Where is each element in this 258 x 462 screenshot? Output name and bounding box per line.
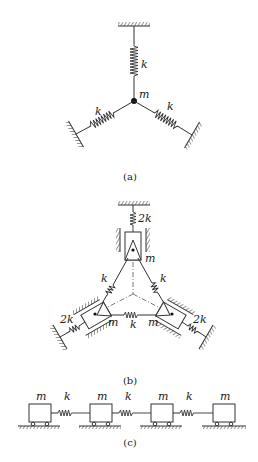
wall-top-a bbox=[118, 22, 150, 26]
wall-top-b bbox=[118, 201, 150, 205]
spring-left-a bbox=[76, 101, 134, 134]
panel-a: k m k k (a) bbox=[65, 22, 203, 182]
label-k-right-b: k bbox=[160, 272, 167, 285]
caption-c: (c) bbox=[123, 437, 137, 448]
label-k-3-c: k bbox=[186, 390, 193, 403]
label-k-right-a: k bbox=[167, 100, 174, 113]
label-k-top-a: k bbox=[141, 58, 148, 71]
caption-a: (a) bbox=[123, 171, 137, 182]
mass-3-c bbox=[140, 404, 182, 429]
vibration-systems-figure: k m k k (a) bbox=[0, 0, 258, 462]
mass-4-c bbox=[202, 404, 246, 429]
wall-left-a bbox=[65, 121, 83, 149]
panel-c: m k m k m bbox=[18, 390, 246, 448]
wall-right-a bbox=[185, 122, 203, 150]
label-k-left-b: k bbox=[101, 272, 108, 285]
mass-2-c bbox=[79, 404, 121, 429]
label-k-2-c: k bbox=[125, 390, 132, 403]
label-k-bottom-b: k bbox=[130, 318, 137, 331]
spring-2k-top-b bbox=[130, 212, 136, 232]
caption-b: (b) bbox=[123, 375, 137, 386]
spring-top-a bbox=[130, 44, 138, 78]
spring-right-a bbox=[134, 101, 192, 135]
spring-1-c bbox=[51, 410, 90, 416]
label-k-left-a: k bbox=[95, 105, 102, 118]
wall-left-b bbox=[50, 325, 67, 351]
panel-b: 2k m k k k bbox=[50, 201, 217, 386]
label-2k-left-b: 2k bbox=[59, 313, 74, 326]
wall-right-b bbox=[199, 325, 216, 351]
mass-1-c bbox=[18, 404, 60, 429]
label-2k-top-b: 2k bbox=[137, 212, 152, 225]
label-m-1-c: m bbox=[36, 390, 46, 403]
label-k-1-c: k bbox=[64, 390, 71, 403]
label-2k-right-b: 2k bbox=[192, 313, 207, 326]
label-m-left-b: m bbox=[108, 316, 118, 329]
label-m-a: m bbox=[139, 88, 149, 101]
spring-3-c bbox=[173, 410, 213, 416]
label-m-right-b: m bbox=[148, 316, 158, 329]
label-m-top-b: m bbox=[145, 252, 155, 265]
label-m-4-c: m bbox=[220, 390, 230, 403]
label-m-2-c: m bbox=[97, 390, 107, 403]
spring-2-c bbox=[112, 410, 151, 416]
label-m-3-c: m bbox=[158, 390, 168, 403]
